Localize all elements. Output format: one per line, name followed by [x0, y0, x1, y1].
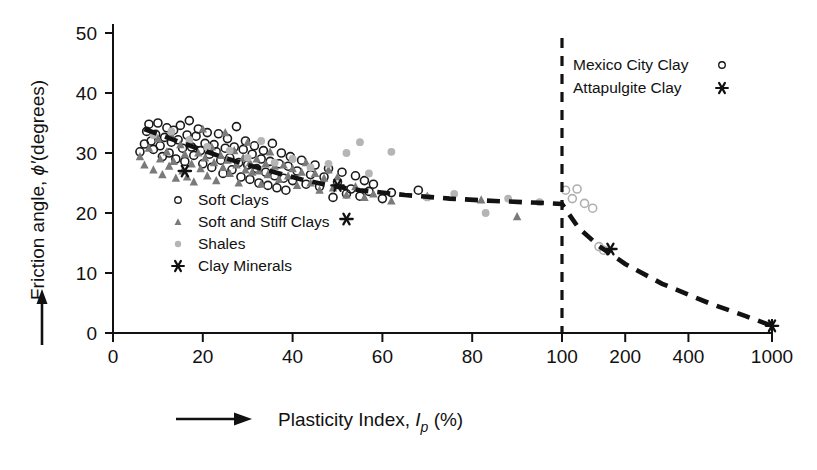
- data-point: [167, 127, 175, 135]
- data-point: [387, 148, 395, 156]
- data-point: [244, 154, 252, 162]
- x-tick-label: 200: [609, 346, 641, 367]
- x-tick-label: 80: [462, 346, 483, 367]
- x-tick-label: 60: [372, 346, 393, 367]
- x-axis-title-main: Plasticity Index,: [278, 409, 415, 430]
- y-tick-label: 0: [86, 323, 97, 344]
- data-point: [482, 209, 490, 217]
- y-tick-label: 30: [76, 143, 97, 164]
- y-tick-label: 40: [76, 83, 97, 104]
- x-tick-label: 0: [108, 346, 119, 367]
- y-axis-title-text: Friction angle, ϕ′(degrees): [27, 80, 48, 300]
- y-tick-label: 20: [76, 203, 97, 224]
- x-axis-title-subscript: p: [420, 419, 429, 435]
- chart-svg: Friction angle, ϕ′(degrees) Plasticity I…: [0, 0, 817, 470]
- data-point: [343, 149, 351, 157]
- data-point: [365, 170, 373, 178]
- legend-label: Clay Minerals: [198, 257, 292, 274]
- chart-background: [0, 0, 817, 470]
- data-point: [257, 137, 265, 145]
- friction-angle-plasticity-index-chart: Friction angle, ϕ′(degrees) Plasticity I…: [0, 0, 817, 470]
- data-point: [289, 155, 297, 163]
- data-point: [325, 160, 333, 168]
- y-tick-label: 50: [76, 23, 97, 44]
- legend-label: Mexico City Clay: [573, 56, 689, 73]
- x-axis-title-unit: (%): [428, 409, 463, 430]
- legend-label: Attapulgite Clay: [573, 79, 682, 96]
- y-tick-label: 10: [76, 263, 97, 284]
- data-point: [307, 164, 315, 172]
- x-tick-label: 1000: [751, 346, 793, 367]
- legend-item-soft-and-stiff-clays: Soft and Stiff Clays: [175, 213, 330, 230]
- data-point: [226, 147, 234, 155]
- x-tick-label: 40: [282, 346, 303, 367]
- y-axis-title-unit: (degrees): [27, 80, 48, 161]
- x-tick-label: 100: [546, 346, 578, 367]
- data-point: [356, 138, 364, 146]
- legend-label: Soft Clays: [198, 191, 269, 208]
- x-tick-label: 400: [673, 346, 705, 367]
- y-axis-title-main: Friction angle,: [27, 175, 48, 300]
- data-point: [271, 159, 279, 167]
- legend-marker-filled-circle-gray-icon: [175, 241, 181, 247]
- x-tick-label: 20: [192, 346, 213, 367]
- legend-label: Soft and Stiff Clays: [198, 213, 330, 230]
- legend-label: Shales: [198, 235, 246, 252]
